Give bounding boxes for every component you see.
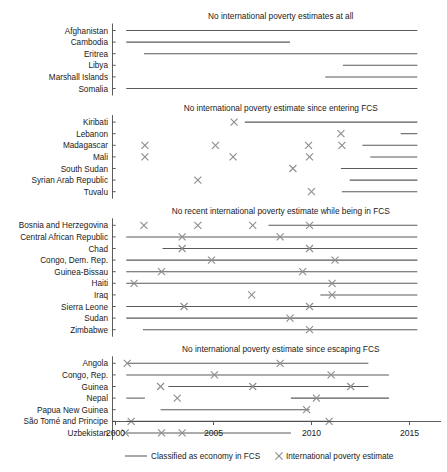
estimate-marker-x-icon xyxy=(140,222,147,229)
category-label: Sierra Leone xyxy=(61,303,108,312)
estimate-marker-x-icon xyxy=(194,177,201,184)
category-label: Nepal xyxy=(87,394,109,403)
category-label: Syrian Arab Republic xyxy=(32,176,108,185)
category-label: Congo, Rep. xyxy=(62,371,108,380)
estimate-marker-x-icon xyxy=(231,119,238,126)
x-axis-tick-label: 2005 xyxy=(204,428,223,438)
estimate-marker-x-icon xyxy=(141,142,148,149)
category-label: Bosnia and Herzegovina xyxy=(19,221,109,230)
panel-1: No international poverty estimates at al… xyxy=(49,11,417,96)
panel-title: No international poverty estimates at al… xyxy=(208,11,353,21)
chart-row: Congo, Dem. Rep. xyxy=(40,256,417,265)
chart-row: Guinea xyxy=(82,383,369,392)
chart-row: South Sudan xyxy=(61,165,418,174)
legend-x-icon xyxy=(275,452,282,459)
chart-row: Zimbabwe xyxy=(70,326,417,335)
category-label: Cambodia xyxy=(71,38,109,47)
estimate-marker-x-icon xyxy=(230,153,237,160)
category-label: Eritrea xyxy=(84,50,109,59)
chart-row: Afghanistan xyxy=(65,27,418,36)
x-axis-tick-label: 2010 xyxy=(302,428,321,438)
chart-row: Sierra Leone xyxy=(61,303,417,312)
chart-row: Eritrea xyxy=(84,50,417,59)
chart-legend: Classified as economy in FCSInternationa… xyxy=(125,452,394,461)
estimate-marker-x-icon xyxy=(194,222,201,229)
category-label: Afghanistan xyxy=(65,27,109,36)
panel-4: No international poverty estimate since … xyxy=(23,344,388,440)
estimate-marker-x-icon xyxy=(338,142,345,149)
category-label: Tuvalu xyxy=(84,188,109,197)
category-label: Guinea-Bissau xyxy=(54,268,108,277)
category-label: Chad xyxy=(88,245,108,254)
chart-row: Tuvalu xyxy=(84,188,418,197)
estimate-marker-x-icon xyxy=(306,153,313,160)
chart-row: Nepal xyxy=(87,394,389,403)
chart-row: Lebanon xyxy=(76,130,417,139)
category-label: Iraq xyxy=(94,291,109,300)
chart-row: Marshall Islands xyxy=(49,73,417,82)
legend-label-fcs: Classified as economy in FCS xyxy=(151,452,261,461)
chart-row: Uzbekistan xyxy=(67,429,290,438)
chart-row: Somalia xyxy=(78,85,417,94)
category-label: Central African Republic xyxy=(20,233,108,242)
chart-row: Guinea-Bissau xyxy=(54,268,417,277)
category-label: Kiribati xyxy=(83,118,108,127)
chart-row: Libya xyxy=(88,61,417,70)
panel-title: No international poverty estimate since … xyxy=(184,103,379,113)
category-label: Congo, Dem. Rep. xyxy=(40,256,108,265)
category-label: Somalia xyxy=(78,85,108,94)
chart-row: Sudan xyxy=(84,314,417,323)
x-axis-tick-label: 2000 xyxy=(106,428,125,438)
category-label: Marshall Islands xyxy=(49,73,108,82)
category-label: South Sudan xyxy=(61,165,109,174)
chart-row: Papua New Guinea xyxy=(37,406,310,415)
category-label: Sudan xyxy=(84,314,108,323)
category-label: Mali xyxy=(93,153,108,162)
x-axis-tick-label: 2015 xyxy=(400,428,419,438)
chart-row: Angola xyxy=(83,359,369,368)
chart-row: Mali xyxy=(93,153,417,162)
panel-3: No recent international poverty estimate… xyxy=(19,206,418,337)
estimate-marker-x-icon xyxy=(248,291,255,298)
estimate-marker-x-icon xyxy=(305,142,312,149)
category-label: Zimbabwe xyxy=(70,326,108,335)
estimate-marker-x-icon xyxy=(289,165,296,172)
panel-title: No recent international poverty estimate… xyxy=(172,206,391,216)
estimate-marker-x-icon xyxy=(337,130,344,137)
panel-2: No international poverty estimate since … xyxy=(32,103,418,199)
category-label: Papua New Guinea xyxy=(37,406,108,415)
category-label: Guinea xyxy=(82,383,109,392)
estimate-marker-x-icon xyxy=(212,142,219,149)
category-label: Uzbekistan xyxy=(67,429,108,438)
category-label: Madagascar xyxy=(63,141,108,150)
chart-row: Kiribati xyxy=(83,118,417,127)
category-label: Angola xyxy=(83,359,109,368)
legend-label-estimate: International poverty estimate xyxy=(286,452,394,461)
poverty-estimates-chart: No international poverty estimates at al… xyxy=(0,0,447,472)
chart-row: Iraq xyxy=(94,291,417,300)
estimate-marker-x-icon xyxy=(141,153,148,160)
chart-row: Central African Republic xyxy=(20,233,417,242)
chart-row: Congo, Rep. xyxy=(62,371,389,380)
estimate-marker-x-icon xyxy=(308,188,315,195)
estimate-marker-x-icon xyxy=(174,395,181,402)
category-label: São Tomé and Principe xyxy=(23,417,108,426)
estimate-marker-x-icon xyxy=(157,383,164,390)
chart-row: Syrian Arab Republic xyxy=(32,176,418,185)
estimate-marker-x-icon xyxy=(249,222,256,229)
chart-row: Madagascar xyxy=(63,141,417,150)
chart-row: Chad xyxy=(88,245,417,254)
panel-title: No international poverty estimate since … xyxy=(182,344,380,354)
category-label: Lebanon xyxy=(76,130,108,139)
category-label: Libya xyxy=(88,61,108,70)
category-label: Haiti xyxy=(92,279,109,288)
chart-row: Bosnia and Herzegovina xyxy=(19,221,418,230)
chart-row: Cambodia xyxy=(71,38,290,47)
chart-row: Haiti xyxy=(92,279,418,288)
